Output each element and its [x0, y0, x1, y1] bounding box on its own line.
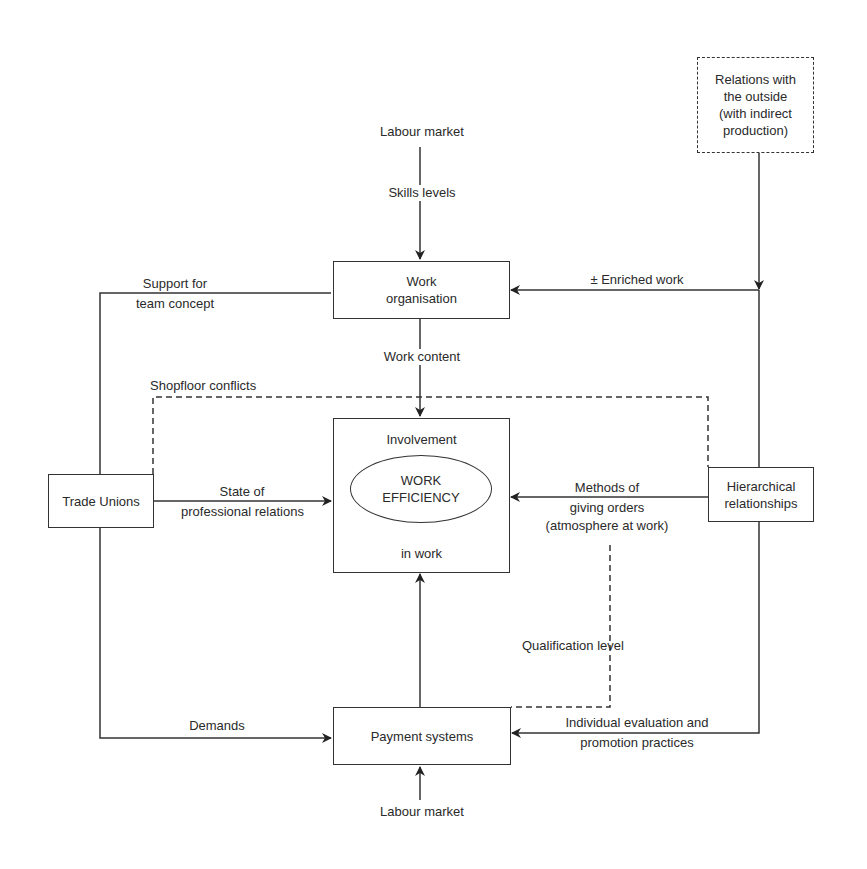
- individual-evaluation-label-2: promotion practices: [560, 735, 714, 751]
- in-work-label: in work: [401, 545, 442, 562]
- labour-market-top-label: Labour market: [370, 124, 474, 140]
- state-relations-label-1: State of: [200, 484, 284, 500]
- hierarchical-line-2: relationships: [725, 495, 798, 512]
- work-organisation-line-1: Work: [406, 273, 436, 290]
- involvement-label: Involvement: [386, 431, 456, 448]
- demands-label: Demands: [175, 718, 259, 734]
- methods-orders-label-3: (atmosphere at work): [527, 518, 687, 534]
- trade-unions-label: Trade Unions: [62, 493, 140, 510]
- relations-outside-box: Relations with the outside (with indirec…: [697, 57, 814, 153]
- work-efficiency-ellipse: WORK EFFICIENCY: [350, 455, 492, 523]
- relations-line-2: the outside: [724, 88, 788, 105]
- shopfloor-conflicts-label: Shopfloor conflicts: [148, 378, 282, 394]
- hierarchical-line-1: Hierarchical: [727, 478, 796, 495]
- work-organisation-box: Work organisation: [333, 261, 510, 319]
- relations-line-4: production): [723, 122, 788, 139]
- state-relations-label-2: professional relations: [163, 504, 322, 520]
- trade-unions-box: Trade Unions: [48, 474, 154, 528]
- enriched-work-label: ± Enriched work: [570, 272, 704, 288]
- payment-systems-box: Payment systems: [333, 707, 511, 765]
- hierarchical-relationships-box: Hierarchical relationships: [708, 467, 814, 522]
- methods-orders-label-1: Methods of: [540, 480, 674, 496]
- methods-orders-label-2: giving orders: [540, 500, 674, 516]
- skills-levels-label: Skills levels: [380, 185, 464, 201]
- arrow-demands: [100, 527, 331, 738]
- arrow-individual-evaluation: [512, 522, 759, 733]
- qualification-level-label: Qualification level: [520, 638, 654, 654]
- work-efficiency-line-1: WORK: [401, 472, 441, 489]
- payment-systems-label: Payment systems: [371, 728, 474, 745]
- dashed-qualification-level: [511, 545, 610, 707]
- labour-market-bottom-label: Labour market: [370, 804, 474, 820]
- support-team-label-1: Support for: [123, 276, 227, 292]
- work-efficiency-line-2: EFFICIENCY: [382, 489, 459, 506]
- relations-line-1: Relations with: [715, 71, 796, 88]
- relations-line-3: (with indirect: [719, 105, 792, 122]
- individual-evaluation-label-1: Individual evaluation and: [545, 715, 729, 731]
- work-content-label: Work content: [375, 349, 469, 365]
- work-organisation-line-2: organisation: [386, 290, 457, 307]
- support-team-label-2: team concept: [118, 296, 232, 312]
